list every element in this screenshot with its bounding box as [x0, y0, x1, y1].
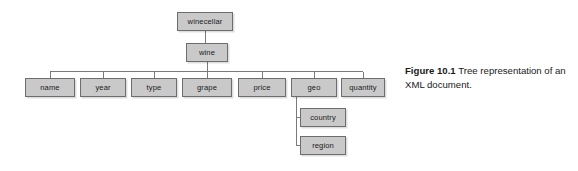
node-wine-label: wine	[199, 49, 215, 57]
node-name[interactable]: name	[25, 78, 75, 97]
node-wine[interactable]: wine	[186, 43, 228, 62]
node-winecellar[interactable]: winecellar	[177, 12, 233, 31]
node-country-label: country	[310, 114, 336, 122]
node-quantity[interactable]: quantity	[341, 78, 385, 97]
node-geo[interactable]: geo	[291, 78, 337, 97]
node-price[interactable]: price	[238, 78, 286, 97]
node-year[interactable]: year	[80, 78, 126, 97]
node-region-label: region	[312, 142, 334, 150]
node-year-label: year	[95, 84, 110, 92]
figure-container: winecellar wine name year type grape pri…	[0, 0, 578, 171]
node-type-label: type	[147, 84, 162, 92]
node-region[interactable]: region	[300, 136, 346, 155]
tree-diagram: winecellar wine name year type grape pri…	[0, 0, 395, 171]
node-country[interactable]: country	[300, 108, 346, 127]
node-price-label: price	[254, 84, 271, 92]
node-grape[interactable]: grape	[182, 78, 232, 97]
node-type[interactable]: type	[131, 78, 177, 97]
node-quantity-label: quantity	[349, 84, 376, 92]
node-winecellar-label: winecellar	[188, 18, 223, 26]
figure-caption: Figure 10.1 Tree representation of an XM…	[405, 64, 573, 91]
node-name-label: name	[40, 84, 59, 92]
figure-label: Figure 10.1	[405, 65, 456, 76]
node-geo-label: geo	[308, 84, 321, 92]
node-grape-label: grape	[197, 84, 217, 92]
